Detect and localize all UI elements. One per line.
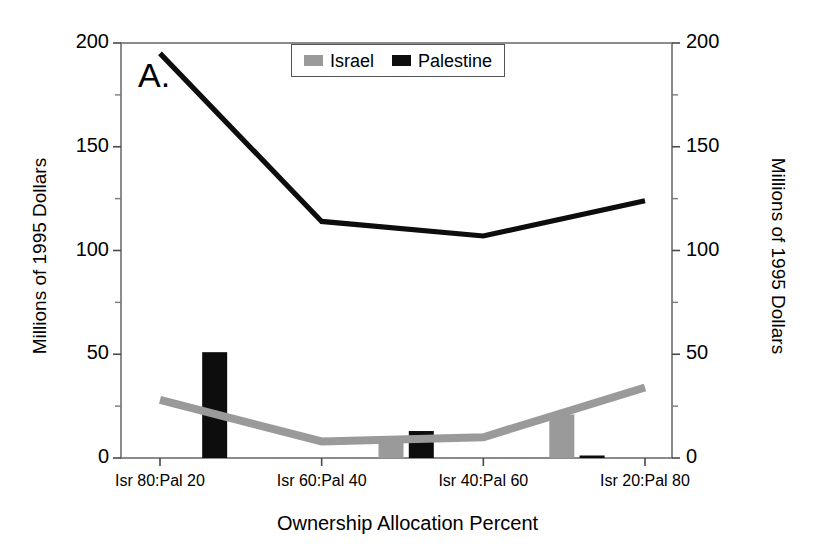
x-tick-label-3: Isr 20:Pal 80	[565, 472, 725, 490]
y-tick-label-left-0: 0	[51, 445, 109, 468]
x-tick-label-0: Isr 80:Pal 20	[80, 472, 240, 490]
y-tick-label-left-50: 50	[51, 341, 109, 364]
y-tick-label-left-150: 150	[51, 134, 109, 157]
line-palestine	[160, 53, 645, 236]
y-tick-label-right-50: 50	[686, 341, 744, 364]
y-tick-label-left-200: 200	[51, 30, 109, 53]
y-tick-label-right-150: 150	[686, 134, 744, 157]
y-tick-label-right-100: 100	[686, 238, 744, 261]
y-tick-label-right-0: 0	[686, 445, 744, 468]
line-series-group	[160, 53, 645, 441]
y-tick-label-right-200: 200	[686, 30, 744, 53]
bar-palestine-0	[202, 352, 227, 458]
bar-palestine-4	[580, 456, 605, 459]
bar-israel-3	[549, 414, 574, 458]
chart-figure: Millions of 1995 Dollars Millions of 199…	[0, 0, 815, 558]
y-tick-label-left-100: 100	[51, 238, 109, 261]
x-tick-label-2: Isr 40:Pal 60	[403, 472, 563, 490]
x-tick-label-1: Isr 60:Pal 40	[242, 472, 402, 490]
